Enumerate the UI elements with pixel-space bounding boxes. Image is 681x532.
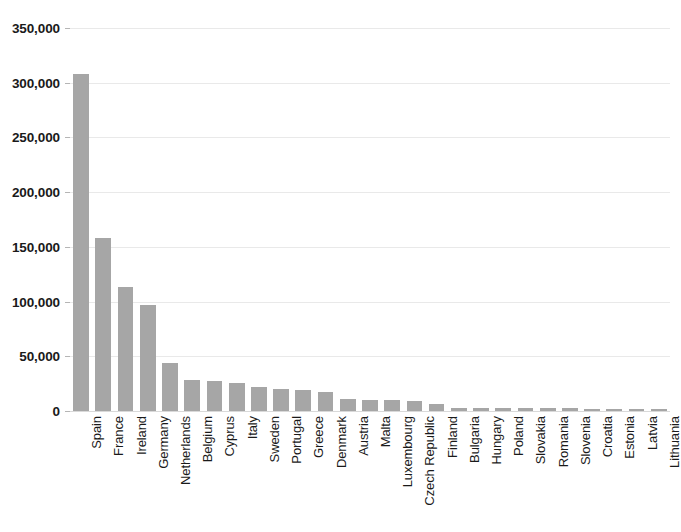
bar-slot: [70, 28, 92, 411]
y-tick-label: 0: [53, 404, 60, 419]
x-label-slot: Finland: [426, 413, 448, 532]
y-tick-label: 200,000: [12, 185, 60, 200]
bar-slot: [270, 28, 292, 411]
x-label-slot: Bulgaria: [448, 413, 470, 532]
bar: [407, 401, 423, 411]
bar: [318, 392, 334, 411]
x-label-slot: Croatia: [581, 413, 603, 532]
x-label-slot: Greece: [292, 413, 314, 532]
bar: [473, 408, 489, 411]
x-label-slot: France: [92, 413, 114, 532]
y-tick-label: 300,000: [12, 75, 60, 90]
bar: [273, 389, 289, 411]
bar: [584, 409, 600, 411]
bar-slot: [159, 28, 181, 411]
bar: [562, 408, 578, 411]
x-label-slot: Portugal: [270, 413, 292, 532]
bar-slot: [448, 28, 470, 411]
bar-slot: [248, 28, 270, 411]
x-label-slot: Italy: [226, 413, 248, 532]
bar-slot: [559, 28, 581, 411]
bar-slot: [603, 28, 625, 411]
y-tick-label: 350,000: [12, 21, 60, 36]
bar-slot: [181, 28, 203, 411]
bar: [429, 404, 445, 411]
x-label-slot: Germany: [137, 413, 159, 532]
bar-slot: [292, 28, 314, 411]
x-label-slot: Malta: [359, 413, 381, 532]
x-label-slot: Luxembourg: [381, 413, 403, 532]
x-axis: SpainFranceIrelandGermanyNetherlandsBelg…: [70, 413, 670, 532]
bar-slot: [359, 28, 381, 411]
x-label-slot: Slovenia: [559, 413, 581, 532]
bar-slot: [337, 28, 359, 411]
gridline: [70, 411, 670, 412]
x-label-slot: Netherlands: [159, 413, 181, 532]
x-label-slot: Austria: [337, 413, 359, 532]
axis-tick: [65, 411, 70, 412]
bar-slot: [226, 28, 248, 411]
x-label-slot: Lithuania: [648, 413, 670, 532]
x-label-slot: Czech Republic: [403, 413, 425, 532]
bar-slot: [137, 28, 159, 411]
bar-slot: [314, 28, 336, 411]
bar-slot: [403, 28, 425, 411]
chart-title-clip: [0, 0, 677, 12]
bar-slot: [648, 28, 670, 411]
x-label-slot: Denmark: [314, 413, 336, 532]
plot-area: [70, 28, 670, 411]
bar: [229, 383, 245, 411]
bar: [207, 381, 223, 411]
x-label-slot: Romania: [537, 413, 559, 532]
x-label-slot: Slovakia: [514, 413, 536, 532]
bar: [540, 408, 556, 411]
bar: [606, 409, 622, 411]
x-label-slot: Latvia: [625, 413, 647, 532]
x-label-slot: Belgium: [181, 413, 203, 532]
bar: [629, 409, 645, 411]
bar-slot: [114, 28, 136, 411]
y-tick-label: 50,000: [19, 349, 60, 364]
bar-slot: [381, 28, 403, 411]
bar: [162, 363, 178, 411]
bar: [340, 399, 356, 411]
y-axis: 050,000100,000150,000200,000250,000300,0…: [0, 0, 68, 412]
bar: [184, 380, 200, 411]
x-label-slot: Hungary: [470, 413, 492, 532]
bar-slot: [625, 28, 647, 411]
bar-slot: [537, 28, 559, 411]
bar-slot: [581, 28, 603, 411]
bar: [451, 408, 467, 411]
x-label-slot: Estonia: [603, 413, 625, 532]
bar-slot: [426, 28, 448, 411]
bar: [362, 400, 378, 411]
bar: [518, 408, 534, 411]
bar: [251, 387, 267, 411]
y-tick-label: 150,000: [12, 239, 60, 254]
y-tick-label: 250,000: [12, 130, 60, 145]
x-label-slot: Cyprus: [203, 413, 225, 532]
bar: [384, 400, 400, 411]
bar: [73, 74, 89, 411]
y-tick-label: 100,000: [12, 294, 60, 309]
x-label-slot: Ireland: [114, 413, 136, 532]
bar-slot: [514, 28, 536, 411]
x-label-slot: Spain: [70, 413, 92, 532]
bar-slot: [92, 28, 114, 411]
bars-container: [70, 28, 670, 411]
bar: [140, 305, 156, 411]
x-label-slot: Poland: [492, 413, 514, 532]
x-tick-label: Lithuania: [666, 416, 681, 468]
x-label-slot: Sweden: [248, 413, 270, 532]
bar: [118, 287, 134, 411]
bar: [95, 238, 111, 411]
bar-slot: [492, 28, 514, 411]
bar-slot: [203, 28, 225, 411]
bar: [295, 390, 311, 411]
bar: [651, 409, 667, 411]
bar-slot: [470, 28, 492, 411]
bar: [495, 408, 511, 411]
